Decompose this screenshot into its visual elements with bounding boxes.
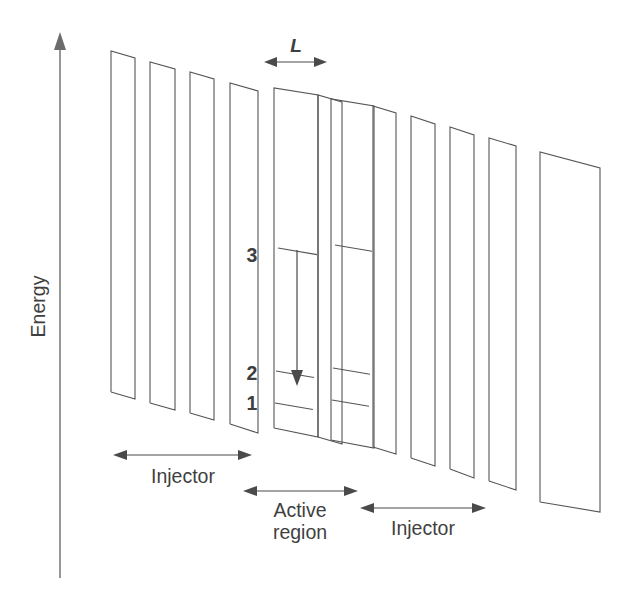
conduction-band-profile (111, 51, 600, 512)
band-barrier-8 (489, 138, 516, 490)
region-marker-injector-2: Injector (360, 503, 486, 539)
band-barrier-5 (373, 106, 396, 454)
energy-axis: Energy (27, 32, 66, 578)
region-marker-arrowhead-left-2 (360, 503, 374, 513)
band-diagram-canvas: Energy 321 L InjectorActiveregionInjecto… (0, 0, 622, 607)
active-well-1 (331, 99, 374, 448)
band-barrier-2 (190, 72, 214, 420)
period-length-marker: L (264, 35, 327, 67)
radiative-transition-arrow (291, 250, 303, 386)
region-marker-active-region-1: Activeregion (243, 486, 358, 543)
energy-level-1-well-2 (332, 400, 369, 406)
energy-levels-group: 321 (247, 244, 372, 414)
band-barrier-9 (540, 152, 600, 512)
region-marker-arrowhead-right-2 (472, 503, 486, 513)
region-marker-arrowhead-right-1 (344, 486, 358, 496)
band-barrier-6 (411, 116, 435, 466)
region-marker-label-injector-2-line0: Injector (391, 517, 455, 539)
energy-level-1-well-1 (275, 403, 313, 409)
energy-level-label-1: 1 (247, 392, 258, 414)
energy-level-2-well-2 (333, 368, 370, 374)
active-well-0 (274, 88, 318, 437)
band-barrier-1 (150, 62, 175, 410)
period-length-label: L (290, 35, 302, 56)
band-barrier-7 (450, 127, 474, 478)
region-marker-label-injector-0-line0: Injector (151, 465, 215, 487)
transition-arrowhead (291, 370, 303, 386)
energy-level-3-well-2 (335, 245, 372, 251)
band-barrier-4 (318, 95, 342, 444)
region-marker-arrowhead-left-1 (243, 486, 257, 496)
region-marker-label-active-region-1-line0: Active (273, 499, 326, 521)
region-marker-arrowhead-left-0 (113, 450, 127, 460)
energy-level-label-3: 3 (247, 244, 258, 266)
region-marker-arrowhead-right-0 (238, 450, 252, 460)
period-marker-arrowhead-left (264, 57, 277, 67)
period-marker-arrowhead-right (314, 57, 327, 67)
band-barrier-0 (111, 51, 135, 399)
qcl-band-diagram: Energy 321 L InjectorActiveregionInjecto… (0, 0, 622, 607)
region-marker-label-active-region-1-line1: region (273, 521, 327, 543)
energy-axis-label: Energy (27, 275, 49, 337)
region-marker-injector-0: Injector (113, 450, 252, 487)
energy-level-label-2: 2 (247, 362, 258, 384)
energy-axis-arrowhead (54, 32, 66, 50)
